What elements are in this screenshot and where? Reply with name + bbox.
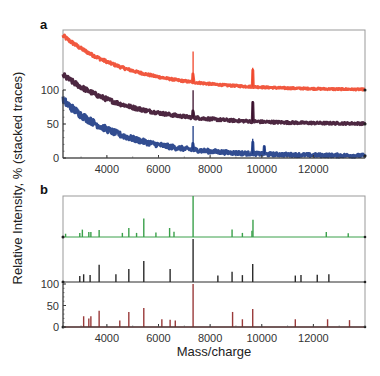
panel-label-b: b: [40, 182, 48, 197]
x-tick-label: 6000: [146, 332, 170, 344]
x-tick-label: 8000: [198, 163, 222, 175]
panel-a-axes: 4000600080001000012000050100: [41, 84, 365, 175]
baseline-end-marker: [364, 281, 367, 284]
x-tick-label: 10000: [246, 163, 277, 175]
x-tick-label: 12000: [298, 163, 329, 175]
x-tick-label: 4000: [95, 163, 119, 175]
panel-b-axes: 4000600080001000012000050100: [41, 278, 365, 344]
spectrum-trace: [63, 74, 365, 125]
x-tick-label: 6000: [146, 163, 170, 175]
x-tick-label: 4000: [95, 332, 119, 344]
trace-end-marker: [364, 123, 367, 126]
x-tick-label: 10000: [246, 332, 277, 344]
y-tick-label: 0: [53, 321, 59, 333]
y-tick-label: 50: [47, 300, 59, 312]
y-tick-label: 50: [47, 118, 59, 130]
panel-a: a 4000600080001000012000050100: [40, 17, 367, 175]
panel-a-frame: [63, 30, 365, 158]
x-tick-label: 8000: [198, 332, 222, 344]
baseline-start-marker: [62, 236, 65, 239]
y-tick-label: 0: [53, 152, 59, 164]
baseline-end-marker: [364, 236, 367, 239]
trace-end-marker: [364, 89, 367, 92]
figure: Relative Intensity, % (stacked traces) a…: [0, 0, 380, 376]
y-axis-title: Relative Intensity, % (stacked traces): [10, 72, 25, 285]
panel-b-sticks: [62, 196, 367, 329]
y-tick-label: 100: [41, 84, 59, 96]
panel-b: b 4000600080001000012000050100: [40, 182, 366, 344]
x-tick-label: 12000: [298, 332, 329, 344]
panel-a-traces: [63, 35, 367, 157]
baseline-start-marker: [62, 281, 65, 284]
spectrum-trace: [63, 35, 365, 90]
y-tick-label: 100: [41, 278, 59, 290]
panel-b-frame: [63, 196, 365, 327]
panel-label-a: a: [40, 17, 48, 32]
spectrum-trace: [63, 97, 365, 157]
x-axis-title: Mass/charge: [177, 344, 251, 359]
